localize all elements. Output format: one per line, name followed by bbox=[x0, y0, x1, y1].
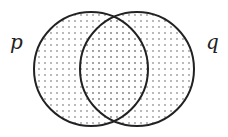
venn-diagram bbox=[0, 0, 228, 137]
set-p-label: p bbox=[10, 30, 23, 54]
set-q-label: q bbox=[206, 30, 219, 54]
